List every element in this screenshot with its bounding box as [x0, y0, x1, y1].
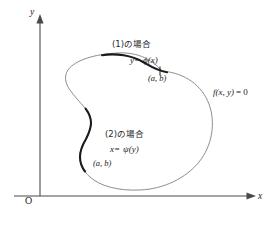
y-axis-arrowhead: [36, 14, 43, 24]
case1-point-label: (a, b): [148, 74, 166, 83]
implicit-function-figure: y x O (1)の場合 y=ϕ(x) (a, b) f(x, y)= 0 (2…: [0, 0, 278, 226]
y-axis-label: y: [30, 8, 34, 18]
implicit-equation-rhs: = 0: [236, 87, 248, 97]
case2-equation: x=ψ(y): [110, 145, 139, 154]
case2-equation-lhs: x=: [110, 144, 120, 154]
implicit-equation-lhs: f(x, y): [213, 87, 234, 97]
case1-equation: y=ϕ(x): [130, 56, 158, 65]
case2-equation-rhs: ψ(y): [123, 144, 139, 154]
x-axis-label: x: [258, 192, 262, 202]
x-axis-arrowhead: [247, 192, 257, 199]
case2-caption: (2)の場合: [105, 130, 144, 139]
origin-label: O: [25, 196, 32, 206]
case1-equation-rhs: ϕ(x): [143, 55, 158, 65]
case2-point-label: (a, b): [93, 159, 111, 168]
case1-equation-lhs: y=: [130, 55, 140, 65]
figure-canvas: [0, 0, 278, 226]
case1-caption: (1)の場合: [112, 40, 151, 49]
psi-highlight-arc: [80, 109, 91, 172]
implicit-equation-label: f(x, y)= 0: [213, 88, 248, 97]
implicit-curve: [66, 53, 213, 190]
